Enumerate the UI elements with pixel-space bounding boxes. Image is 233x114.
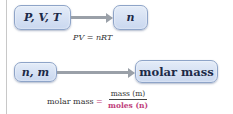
box-nm: n, m bbox=[14, 62, 57, 82]
formula-fraction: mass (m) moles (n) bbox=[108, 89, 148, 110]
box-molar-mass: molar mass bbox=[135, 60, 218, 83]
box-pvt-label: P, V, T bbox=[24, 11, 61, 24]
box-n: n bbox=[113, 5, 148, 30]
ideal-gas-equation: PV = nRT bbox=[73, 33, 112, 42]
box-molar-mass-label: molar mass bbox=[139, 65, 213, 79]
arrow-nm-to-molar-mass bbox=[57, 71, 129, 74]
box-n-label: n bbox=[127, 11, 135, 24]
formula-label: molar mass bbox=[47, 97, 94, 106]
fraction-denominator: moles (n) bbox=[108, 100, 148, 110]
box-pvt: P, V, T bbox=[14, 5, 71, 30]
arrow-pvt-to-n bbox=[71, 16, 107, 19]
box-nm-label: n, m bbox=[22, 66, 49, 79]
left-border-line bbox=[6, 0, 7, 114]
fraction-numerator: mass (m) bbox=[109, 89, 148, 100]
formula-equals: = bbox=[96, 97, 103, 106]
